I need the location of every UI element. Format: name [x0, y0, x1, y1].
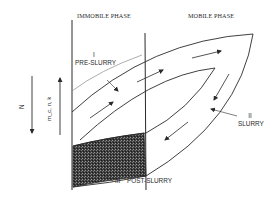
- outer-upper-curve: [72, 34, 253, 112]
- mobile-phase-header: MOBILE PHASE: [188, 13, 234, 19]
- slurry-numeral: II: [235, 113, 265, 119]
- flow-arrow-2: [137, 70, 163, 82]
- flow-arrow-1: [90, 102, 113, 118]
- inner-upper-curve: [80, 68, 215, 140]
- post-slurry-numeral: III: [115, 178, 120, 184]
- post-slurry-label: POST-SLURRY: [127, 178, 172, 184]
- pre-slurry-leader: [107, 80, 118, 91]
- flow-arrow-3: [192, 51, 221, 58]
- n-axis-label: N: [19, 104, 25, 109]
- flow-arrow-4: [214, 74, 229, 100]
- pre-slurry-numeral: I: [74, 52, 114, 58]
- phase-diagram: IMMOBILE PHASE MOBILE PHASE I PRE-SLURRY…: [0, 0, 280, 199]
- slurry-leader: [211, 109, 237, 116]
- diagram-graphics: [0, 0, 280, 199]
- immobile-phase-header: IMMOBILE PHASE: [77, 13, 131, 19]
- slurry-label: SLURRY: [238, 121, 264, 127]
- flow-arrow-5: [165, 122, 188, 140]
- mc-n-k-axis-label: m_c, n, k: [46, 97, 52, 121]
- pre-slurry-label: PRE-SLURRY: [75, 60, 116, 66]
